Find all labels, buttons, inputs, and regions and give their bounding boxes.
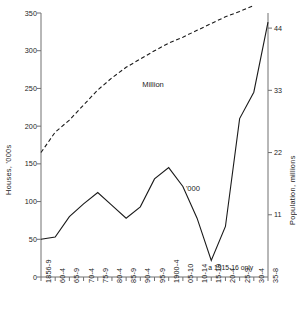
x-tick-label: 95-9 xyxy=(158,268,167,283)
series-label-million: Million xyxy=(142,80,164,89)
x-tick-label: 1856-9 xyxy=(44,259,53,283)
left-tick-label: 50 xyxy=(8,235,37,244)
right-axis-title: Population, millions xyxy=(288,155,297,225)
left-tick-label: 200 xyxy=(8,122,37,131)
left-axis-title: Houses, '000s xyxy=(4,144,13,195)
x-tick-label: 1900-4 xyxy=(172,259,181,283)
right-tick-label: 22 xyxy=(274,148,282,157)
left-axis-ticks xyxy=(37,13,41,277)
left-tick-label: 250 xyxy=(8,84,37,93)
x-tick-label: 90-4 xyxy=(143,268,152,283)
x-tick-label: 65-9 xyxy=(72,268,81,283)
right-tick-label: 33 xyxy=(274,86,282,95)
x-tick-label: 60-4 xyxy=(58,268,67,283)
x-tick-label: 80-4 xyxy=(115,268,124,283)
x-tick-label: 85-9 xyxy=(129,268,138,283)
left-tick-label: 350 xyxy=(8,9,37,18)
x-tick-label: 35-8 xyxy=(271,268,280,283)
x-tick-label: 70-4 xyxy=(87,268,96,283)
x-tick-label: 75-9 xyxy=(101,268,110,283)
right-axis-ticks xyxy=(268,28,272,215)
left-tick-label: 0 xyxy=(8,273,37,282)
x-tick-label: 05-10 xyxy=(186,264,195,283)
left-tick-label: 300 xyxy=(8,46,37,55)
series-line-thousands xyxy=(41,22,268,260)
figure-root: 050100150200250300350 11223344 1856-960-… xyxy=(0,0,297,319)
footnote-annotation: a 1915-16 only xyxy=(208,264,253,271)
series-label-thousands: '000 xyxy=(186,184,200,193)
x-tick-label: 30-4 xyxy=(257,268,266,283)
right-tick-label: 44 xyxy=(274,24,282,33)
right-tick-label: 11 xyxy=(274,210,282,219)
left-tick-label: 100 xyxy=(8,197,37,206)
